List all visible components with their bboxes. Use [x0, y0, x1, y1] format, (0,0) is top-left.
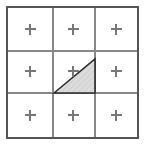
- geometry-figure: [0, 0, 146, 145]
- grid-diagram-svg: [0, 0, 146, 145]
